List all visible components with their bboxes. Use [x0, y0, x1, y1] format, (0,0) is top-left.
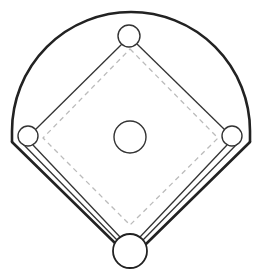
baseline-first-to-home [143, 143, 238, 240]
pitchers-mound [114, 121, 146, 153]
baseball-field-diagram: Baseball field diagram [0, 0, 259, 276]
third-base [18, 126, 38, 146]
baseline-second-to-third [35, 44, 122, 130]
foul-line-left [12, 142, 116, 244]
second-base [118, 25, 140, 47]
home-plate [113, 234, 147, 268]
foul-line-right [146, 142, 250, 244]
first-base [222, 126, 242, 146]
baseline-third-to-home [22, 143, 117, 240]
baseline-first-to-home-inner [140, 145, 227, 237]
baseline-second-to-first [137, 44, 225, 130]
field-svg [0, 0, 259, 276]
baseline-third-to-home-inner [33, 145, 120, 237]
